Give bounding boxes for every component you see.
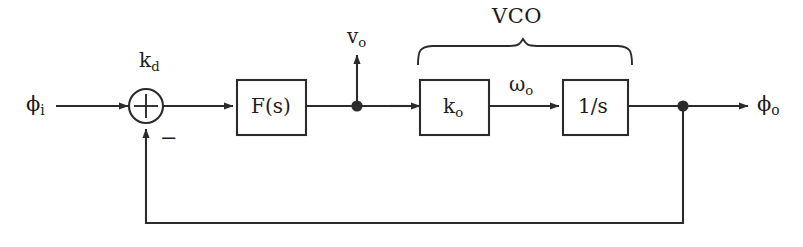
label-loop-filter: F(s) (251, 96, 291, 116)
label-integrator: 1/s (578, 96, 608, 116)
label-vco-frequency: ωo (509, 74, 533, 97)
diagram-canvas (0, 0, 803, 247)
label-vco-group: VCO (492, 6, 542, 27)
label-vco-gain: ko (443, 96, 463, 119)
pll-block-diagram: ϕi kd − F(s) vo VCO ko ωo 1/s ϕo (0, 0, 803, 247)
label-control-voltage: vo (347, 26, 366, 49)
label-phase-detector-gain: kd (139, 50, 160, 73)
label-output-phase: ϕo (757, 94, 780, 118)
vco-group-brace (418, 39, 632, 65)
label-summing-negative-sign: − (160, 128, 178, 149)
label-input-phase: ϕi (26, 94, 45, 118)
